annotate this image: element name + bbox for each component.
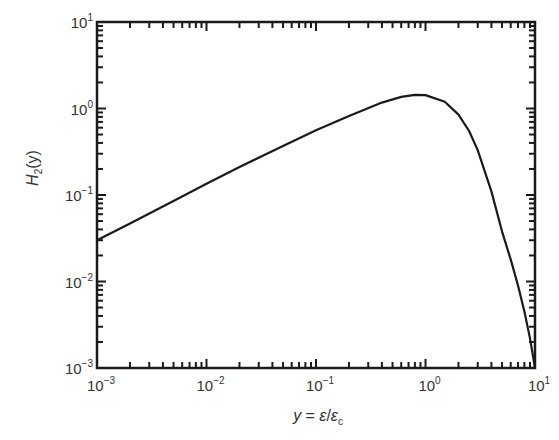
x-axis-label: y = ε/εc [292, 407, 343, 427]
y-tick-label: 10−1 [65, 185, 94, 204]
x-tick-label: 10−2 [196, 375, 225, 394]
x-tick-label: 100 [418, 375, 441, 394]
y-tick-label: 101 [71, 12, 94, 31]
y-tick-label: 100 [71, 99, 94, 118]
y-tick-label: 10−2 [65, 272, 94, 291]
h2-curve [97, 95, 535, 368]
y-tick-label: 10−3 [65, 358, 94, 377]
plot-frame [97, 22, 535, 368]
x-tick-labels: 10−310−210−1100101 [87, 375, 551, 394]
x-tick-label: 10−3 [87, 375, 116, 394]
x-tick-label: 101 [528, 375, 551, 394]
y-axis-label: H2(y) [24, 150, 44, 186]
axis-ticks [97, 22, 535, 368]
x-tick-label: 10−1 [306, 375, 335, 394]
y-tick-labels: 10−310−210−1100101 [65, 12, 94, 377]
chart: 10−310−210−1100101 10−310−210−1100101 y … [0, 0, 559, 440]
